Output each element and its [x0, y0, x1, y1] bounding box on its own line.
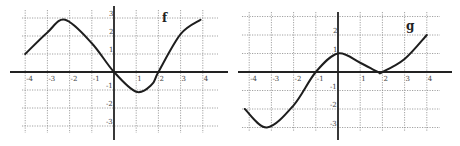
x-tick-label: 4 [428, 75, 433, 83]
y-tick-label: 3 [109, 10, 113, 18]
graph-g-canvas: -4-3-2-1123421-1-2-3g [230, 0, 460, 146]
x-tick-label: -4 [250, 75, 257, 83]
function-label: f [162, 11, 168, 25]
x-tick-label: 2 [383, 75, 387, 83]
y-tick-label: -2 [330, 101, 337, 109]
x-tick-label: -1 [317, 75, 324, 83]
x-tick-label: -4 [26, 75, 33, 83]
x-tick-label: 3 [406, 75, 410, 83]
x-tick-label: 2 [159, 75, 163, 83]
y-tick-labels: 21-1-2-3 [330, 27, 337, 128]
y-tick-label: 1 [333, 46, 337, 54]
y-tick-label: 2 [333, 27, 337, 35]
x-tick-label: 4 [204, 75, 209, 83]
x-tick-label: -3 [272, 75, 279, 83]
x-tick-label: -3 [48, 75, 55, 83]
y-tick-label: 1 [109, 46, 113, 54]
function-label: g [406, 19, 415, 33]
y-tick-label: -1 [106, 82, 113, 90]
y-tick-label: -3 [106, 118, 113, 126]
y-tick-label: 2 [109, 28, 113, 36]
x-tick-label: -1 [93, 75, 100, 83]
y-tick-label: -1 [330, 83, 337, 91]
x-tick-label: -2 [71, 75, 78, 83]
x-tick-label: 1 [361, 75, 365, 83]
graph-g: -4-3-2-1123421-1-2-3g [230, 0, 460, 146]
graph-f-canvas: -4-3-2-11234321-1-2-3f [0, 0, 230, 146]
x-tick-labels: -4-3-2-11234 [250, 75, 433, 83]
x-tick-label: 3 [182, 75, 186, 83]
graph-f: -4-3-2-11234321-1-2-3f [0, 0, 230, 146]
x-tick-label: -2 [295, 75, 302, 83]
x-tick-label: 1 [137, 75, 141, 83]
y-tick-label: -2 [106, 100, 113, 108]
y-tick-label: -3 [330, 120, 337, 128]
